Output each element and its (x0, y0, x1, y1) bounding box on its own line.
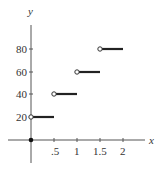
x-tick-label: 1.5 (93, 145, 107, 157)
y-tick-label: 20 (16, 111, 28, 123)
step-function-chart: y x .5 1 1.5 2 20 40 60 80 (0, 0, 160, 171)
origin-point (29, 138, 34, 143)
x-tick-label: 2 (120, 145, 126, 157)
x-tick-label: 1 (74, 145, 80, 157)
open-endpoints (29, 47, 102, 119)
y-tick-label: 40 (16, 88, 28, 100)
x-axis-label: x (148, 134, 154, 146)
y-tick-label: 80 (16, 43, 28, 55)
x-tick-label: .5 (51, 145, 60, 157)
y-axis-label: y (27, 5, 33, 17)
step-segments (33, 49, 123, 117)
y-tick-label: 60 (16, 66, 28, 78)
